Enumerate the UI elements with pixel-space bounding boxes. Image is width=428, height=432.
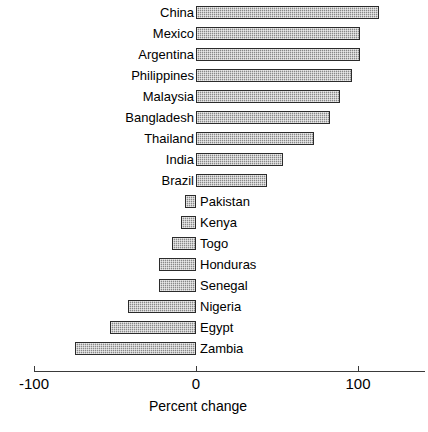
category-label: Nigeria	[200, 298, 241, 315]
bar-row: Malaysia	[0, 88, 428, 109]
bar-row: Philippines	[0, 67, 428, 88]
category-label: Philippines	[131, 67, 194, 84]
category-label: Togo	[200, 235, 228, 252]
bar	[196, 27, 360, 40]
bar-row: Senegal	[0, 277, 428, 298]
bar	[185, 195, 196, 208]
category-label: Brazil	[161, 172, 194, 189]
bar-chart: ChinaMexicoArgentinaPhilippinesMalaysiaB…	[0, 0, 428, 432]
category-label: China	[160, 4, 194, 21]
category-label: Egypt	[200, 319, 233, 336]
bar	[172, 237, 196, 250]
bar-row: Mexico	[0, 25, 428, 46]
category-label: Honduras	[200, 256, 256, 273]
category-label: Senegal	[200, 277, 248, 294]
bar-row: Brazil	[0, 172, 428, 193]
x-axis-tick-label: 0	[192, 375, 200, 393]
x-axis-tick	[358, 366, 359, 371]
bar-row: Egypt	[0, 319, 428, 340]
category-label: Thailand	[144, 130, 194, 147]
bar	[128, 300, 196, 313]
x-axis-tick-label: 100	[345, 375, 370, 393]
bar-row: Thailand	[0, 130, 428, 151]
plot-area: ChinaMexicoArgentinaPhilippinesMalaysiaB…	[0, 0, 428, 372]
bar	[196, 174, 267, 187]
bar-row: China	[0, 4, 428, 25]
bar-row: India	[0, 151, 428, 172]
category-label: Mexico	[153, 25, 194, 42]
bar	[196, 48, 360, 61]
bar	[196, 111, 330, 124]
bar	[159, 258, 196, 271]
category-label: Zambia	[200, 340, 243, 357]
x-axis-tick	[34, 366, 35, 371]
x-axis-title: Percent change	[0, 398, 396, 415]
bar	[196, 90, 340, 103]
category-label: Pakistan	[200, 193, 250, 210]
x-axis-tick-label: -100	[19, 375, 49, 393]
bar-row: Nigeria	[0, 298, 428, 319]
x-axis-tick	[196, 366, 197, 371]
bar	[196, 132, 314, 145]
bar-row: Zambia	[0, 340, 428, 361]
bar-row: Argentina	[0, 46, 428, 67]
bar	[159, 279, 196, 292]
bar-row: Kenya	[0, 214, 428, 235]
category-label: Malaysia	[143, 88, 194, 105]
bar	[196, 69, 352, 82]
bar-row: Honduras	[0, 256, 428, 277]
bar	[181, 216, 196, 229]
bar	[196, 6, 379, 19]
category-label: India	[166, 151, 194, 168]
x-axis-line	[34, 371, 425, 372]
bar	[196, 153, 283, 166]
bar-row: Togo	[0, 235, 428, 256]
category-label: Kenya	[200, 214, 237, 231]
bar-row: Bangladesh	[0, 109, 428, 130]
bar	[110, 321, 196, 334]
category-label: Argentina	[138, 46, 194, 63]
bar	[75, 342, 197, 355]
bar-row: Pakistan	[0, 193, 428, 214]
category-label: Bangladesh	[125, 109, 194, 126]
